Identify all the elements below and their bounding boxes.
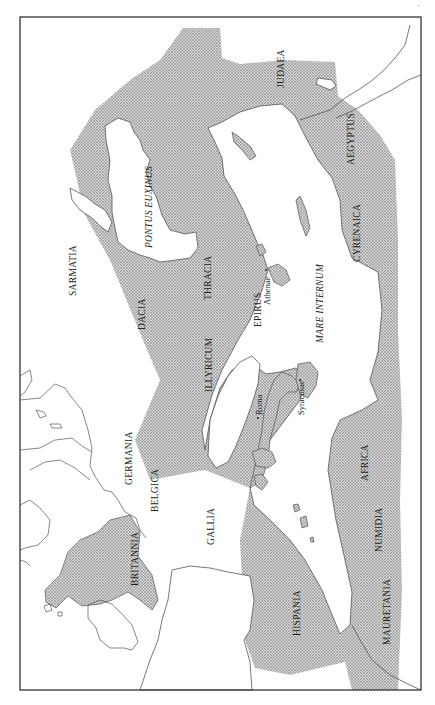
label-britannia: BRITANNIA bbox=[130, 532, 140, 586]
athenae-city-marker bbox=[265, 269, 267, 271]
label-cyrenaica: CYRENAICA bbox=[352, 204, 362, 262]
non-empire-lands bbox=[20, 370, 146, 650]
page-corner-mark: ' bbox=[418, 3, 419, 11]
label-mauretania: MAURETANIA bbox=[382, 579, 392, 645]
syracusae-city-marker bbox=[299, 379, 301, 381]
label-athenae: Athenae bbox=[262, 276, 272, 305]
label-judaea: JUDAEA bbox=[276, 49, 286, 88]
label-hispania: HISPANIA bbox=[292, 590, 302, 636]
label-belgica: BELGICA bbox=[150, 469, 160, 512]
label-aegyptus: AEGYPTUS bbox=[346, 113, 356, 165]
label-africa: AFRICA bbox=[360, 444, 370, 481]
label-illyricum: ILLYRICUM bbox=[204, 337, 214, 392]
label-numidia: NUMIDIA bbox=[374, 508, 384, 552]
label-dacia: DACIA bbox=[137, 298, 147, 330]
label-pontus-euxinus: PONTUS EUXINUS bbox=[144, 166, 154, 249]
label-gallia: GALLIA bbox=[206, 508, 216, 545]
roma-city-marker bbox=[257, 417, 259, 419]
label-thracia: THRACIA bbox=[203, 256, 213, 300]
hibernia-island bbox=[88, 600, 138, 650]
label-syracusae: Syracusae bbox=[296, 380, 306, 415]
atlantic-ocean bbox=[140, 566, 254, 690]
label-sarmatia: SARMATIA bbox=[68, 245, 78, 296]
label-germania: GERMANIA bbox=[124, 431, 134, 485]
label-roma: Roma bbox=[254, 394, 264, 415]
label-mare-internum: MARE INTERNUM bbox=[315, 263, 325, 344]
roman-empire-map: ' bbox=[0, 0, 435, 705]
